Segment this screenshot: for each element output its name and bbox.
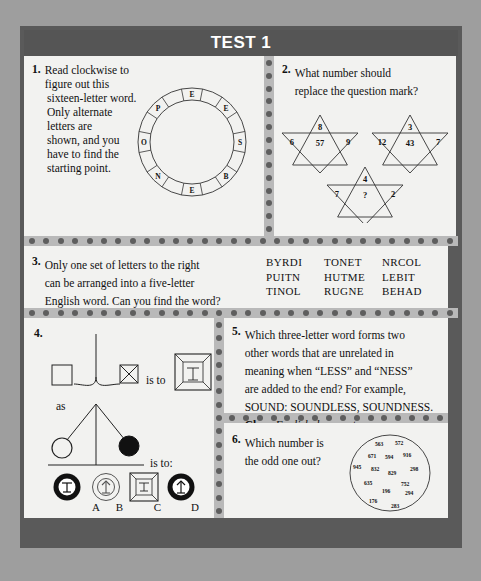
puzzle-4-as-label: as — [56, 399, 66, 413]
ring-letter: P — [156, 104, 161, 113]
letter-set: BEHAD — [382, 284, 440, 299]
letter-set: TONET — [324, 255, 382, 270]
ring-letter: S — [238, 138, 242, 147]
puzzle-3-line3: English word. Can you find the word? — [45, 295, 221, 307]
puzzle-2-line2: replace the question mark? — [295, 85, 419, 97]
triangle-right-value: 9 — [346, 137, 350, 147]
puzzle-3-number: 3. — [32, 255, 41, 309]
puzzle-1-body: Only alternate letters are shown, and yo… — [47, 105, 121, 175]
circle-number: 298 — [410, 466, 418, 472]
puzzle-6-content: 6. Which number is the odd one out? 5635… — [224, 423, 448, 513]
puzzle-1-heading: 1. Read clockwise to figure out this — [32, 63, 152, 91]
puzzle-panel-1: 1. Read clockwise to figure out this six… — [24, 56, 264, 236]
circle-number: 196 — [382, 488, 390, 494]
puzzle-5-line3: meaning when “LESS” and “NESS” — [245, 365, 413, 377]
puzzle-3-line2: can be arranged into a five-letter — [45, 277, 195, 289]
page-title: TEST 1 — [211, 33, 272, 53]
triangle-top-value: 8 — [318, 122, 322, 132]
option-label-b: B — [100, 501, 139, 513]
option-label-c: C — [139, 501, 176, 513]
circle-number: 829 — [388, 470, 396, 476]
letter-set-row: BYRDITONETNRCOL — [266, 255, 440, 270]
divider-horizontal-1 — [24, 236, 458, 246]
puzzle-2-question: What number should replace the question … — [295, 63, 419, 99]
triangle-left-value: 7 — [335, 189, 340, 199]
ring-letter: E — [223, 104, 228, 113]
letter-set: HUTME — [324, 270, 382, 285]
puzzle-4-is-to-2: is to: — [150, 456, 173, 470]
letter-circle-svg: EESBENOP — [136, 86, 248, 198]
circle-number: 752 — [401, 481, 409, 487]
ring-letter: E — [189, 186, 194, 195]
number-circle-figure: 5635726715949169458328292986357521962941… — [347, 433, 433, 513]
puzzle-5-line4: are added to the end? For example, — [245, 383, 406, 395]
option-label-a: A — [24, 501, 100, 513]
circle-number: 294 — [405, 490, 413, 496]
circle-number: 594 — [385, 454, 393, 460]
letter-set: PUITN — [266, 270, 324, 285]
puzzle-6-heading: 6. Which number is the odd one out? — [232, 433, 347, 469]
puzzle-6-number: 6. — [232, 433, 241, 469]
circle-number: 635 — [364, 480, 372, 486]
row-q1-q2: 1. Read clockwise to figure out this six… — [24, 56, 458, 236]
circle-number: 671 — [368, 453, 376, 459]
row-q4-q5-q6: 4. — [24, 318, 458, 518]
puzzle-4-is-to-1: is to — [146, 373, 166, 387]
puzzle-6-line2: the odd one out? — [245, 455, 321, 467]
puzzle-6-question: Which number is the odd one out? — [245, 433, 324, 469]
circle-number: 916 — [403, 452, 411, 458]
letter-sets-grid: BYRDITONETNRCOLPUITNHUTMELEBITTINOLRUGNE… — [266, 255, 440, 309]
puzzle-5-heading: 5. Which three-letter word forms two oth… — [224, 318, 448, 437]
test-page: TEST 1 1. Read clockwise to figure out t… — [20, 26, 462, 548]
puzzle-2-figures: 8657931243747?2 — [274, 105, 456, 223]
letter-set: LEBIT — [382, 270, 440, 285]
triangle-right-value: 2 — [391, 189, 395, 199]
letter-set-row: PUITNHUTMELEBIT — [266, 270, 440, 285]
puzzle-1-text: 1. Read clockwise to figure out this six… — [32, 63, 152, 175]
puzzle-5-line1: Which three-letter word forms two — [245, 329, 405, 341]
puzzle-1-number: 1. — [32, 63, 41, 91]
letter-set: BYRDI — [266, 255, 324, 270]
puzzle-panel-3: 3. Only one set of letters to the right … — [24, 246, 448, 308]
triangle-left-value: 6 — [290, 137, 294, 147]
option-label-d: D — [176, 501, 214, 513]
puzzle-panel-4: 4. — [24, 318, 214, 518]
triangle-center-value: 57 — [316, 138, 325, 148]
puzzle-4-option-labels: A B C D — [24, 501, 214, 513]
triangle-center-value: 43 — [406, 138, 415, 148]
puzzle-2-line1: What number should — [295, 67, 391, 79]
triangle-right-value: 7 — [436, 137, 441, 147]
puzzle-3-heading: 3. Only one set of letters to the right … — [32, 255, 266, 309]
puzzle-5-question: Which three-letter word forms two other … — [245, 325, 434, 433]
circle-number: 176 — [369, 498, 377, 504]
puzzle-2-number: 2. — [282, 63, 291, 99]
puzzle-6-line1: Which number is — [245, 437, 324, 449]
puzzle-5-line2: other words that are unrelated in — [245, 347, 394, 359]
puzzle-3-content: 3. Only one set of letters to the right … — [24, 246, 448, 309]
puzzle-panel-6: 6. Which number is the odd one out? 5635… — [224, 423, 448, 518]
triangle-figures-svg: 8657931243747?2 — [274, 105, 456, 223]
right-column: 5. Which three-letter word forms two oth… — [224, 318, 448, 518]
divider-horizontal-2 — [24, 308, 458, 318]
circle-number: 283 — [391, 503, 399, 509]
puzzle-5-number: 5. — [232, 325, 241, 433]
ring-letter: B — [223, 172, 228, 181]
puzzle-panel-5: 5. Which three-letter word forms two oth… — [224, 318, 448, 413]
triangle-center-value: ? — [363, 190, 367, 200]
letter-set: RUGNE — [324, 284, 382, 299]
circle-number: 832 — [371, 466, 379, 472]
letter-circle-figure: EESBENOP — [136, 86, 248, 198]
letter-set: NRCOL — [382, 255, 440, 270]
puzzle-3-line1: Only one set of letters to the right — [45, 259, 200, 271]
divider-vertical-1 — [264, 56, 274, 236]
letter-set: TINOL — [266, 284, 324, 299]
puzzle-panel-2: 2. What number should replace the questi… — [274, 56, 456, 236]
ring-letter: E — [189, 90, 194, 99]
circle-number: 572 — [395, 440, 403, 446]
puzzle-4-figures-svg — [24, 332, 214, 512]
ring-letter: N — [155, 172, 161, 181]
triangle-top-value: 4 — [363, 174, 368, 184]
puzzle-5-line5: SOUND: SOUNDLESS, SOUNDNESS. — [245, 401, 434, 413]
puzzle-2-heading: 2. What number should replace the questi… — [274, 56, 456, 103]
triangle-left-value: 12 — [378, 137, 387, 147]
